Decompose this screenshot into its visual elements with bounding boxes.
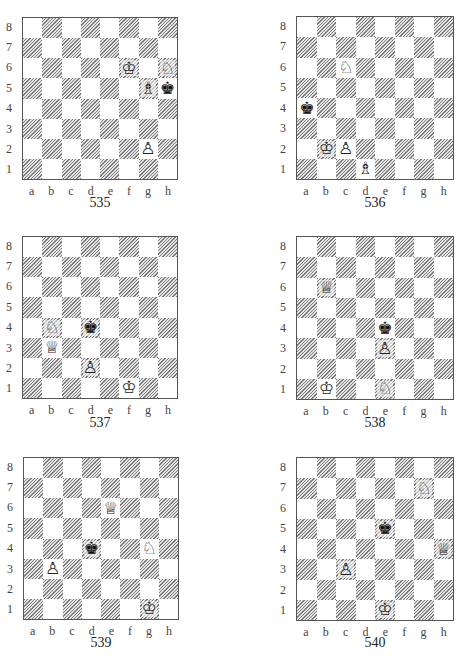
square-d4[interactable] [356,98,376,118]
square-a7[interactable] [297,478,317,498]
square-e8[interactable] [100,237,119,257]
square-f7[interactable] [119,257,138,277]
square-b6[interactable]: ♕ [317,278,337,298]
square-h7[interactable] [159,478,178,498]
square-g6[interactable] [414,58,434,78]
square-h1[interactable] [159,599,178,619]
black-king-icon[interactable]: ♚ [377,520,392,537]
square-c5[interactable] [62,78,81,98]
square-b7[interactable] [317,257,337,277]
square-e4[interactable] [100,99,119,119]
square-d6[interactable] [81,58,100,78]
square-b8[interactable] [317,237,337,257]
white-pawn-icon[interactable]: ♙ [83,359,98,376]
square-b5[interactable] [317,519,337,539]
white-king-icon[interactable]: ♔ [121,60,136,77]
square-c7[interactable] [63,478,82,498]
square-g1[interactable] [414,600,434,620]
square-d6[interactable] [356,499,376,519]
square-e1[interactable] [101,599,120,619]
square-b5[interactable] [42,297,61,317]
square-c4[interactable] [336,539,356,559]
square-g6[interactable] [139,58,158,78]
square-d7[interactable] [356,257,376,277]
square-c5[interactable] [63,518,82,538]
square-b5[interactable] [42,78,61,98]
square-d4[interactable] [81,99,100,119]
square-d8[interactable] [81,18,100,38]
square-f1[interactable] [120,599,139,619]
square-g8[interactable] [139,237,158,257]
square-f2[interactable] [119,358,138,378]
square-e6[interactable] [375,58,395,78]
square-d7[interactable] [356,37,376,57]
square-b3[interactable] [42,119,61,139]
square-a5[interactable] [23,297,42,317]
square-f5[interactable] [119,297,138,317]
square-f6[interactable] [395,58,415,78]
square-g4[interactable]: ♘ [140,539,159,559]
square-b4[interactable] [317,98,337,118]
square-g8[interactable] [414,17,434,37]
square-b2[interactable] [43,579,62,599]
white-pawn-icon[interactable]: ♙ [141,140,156,157]
square-a1[interactable] [297,379,317,399]
square-h4[interactable] [159,539,178,559]
white-queen-icon[interactable]: ♕ [319,279,334,296]
square-e4[interactable] [375,98,395,118]
square-d5[interactable] [81,78,100,98]
square-d4[interactable] [356,318,376,338]
square-e1[interactable]: ♔ [375,600,395,620]
square-f8[interactable] [395,237,415,257]
square-e8[interactable] [100,18,119,38]
square-c3[interactable] [62,338,81,358]
square-e4[interactable] [100,318,119,338]
white-knight-icon[interactable]: ♘ [142,540,157,557]
square-g8[interactable] [139,18,158,38]
square-e5[interactable] [375,298,395,318]
square-f7[interactable] [395,37,415,57]
square-f7[interactable] [395,478,415,498]
square-g6[interactable] [140,498,159,518]
square-c5[interactable] [62,297,81,317]
square-d2[interactable] [82,579,101,599]
square-d2[interactable] [356,139,376,159]
square-d8[interactable] [356,458,376,478]
square-a8[interactable] [297,458,317,478]
square-c1[interactable] [336,379,356,399]
square-b1[interactable] [43,599,62,619]
square-g3[interactable] [139,119,158,139]
square-b7[interactable] [317,37,337,57]
square-d7[interactable] [356,478,376,498]
square-b8[interactable] [42,237,61,257]
square-b5[interactable] [317,78,337,98]
square-d1[interactable] [356,379,376,399]
square-a6[interactable] [297,278,317,298]
white-knight-icon[interactable]: ♘ [160,60,175,77]
square-e3[interactable] [375,118,395,138]
square-a1[interactable] [24,599,43,619]
square-d3[interactable] [81,119,100,139]
square-f1[interactable] [395,379,415,399]
square-h8[interactable] [434,237,454,257]
square-e2[interactable] [375,359,395,379]
square-c6[interactable] [336,278,356,298]
square-f8[interactable] [395,458,415,478]
square-a6[interactable] [297,499,317,519]
square-b2[interactable] [42,139,61,159]
square-d6[interactable] [356,278,376,298]
square-g1[interactable]: ♔ [140,599,159,619]
square-f5[interactable] [119,78,138,98]
square-f6[interactable]: ♔ [119,58,138,78]
square-d7[interactable] [82,478,101,498]
square-a5[interactable] [297,519,317,539]
square-f1[interactable] [119,159,138,179]
square-h5[interactable] [158,297,177,317]
square-b7[interactable] [42,38,61,58]
square-b4[interactable] [43,539,62,559]
square-d7[interactable] [81,38,100,58]
square-c4[interactable] [336,318,356,338]
square-d5[interactable] [356,519,376,539]
square-a7[interactable] [23,38,42,58]
square-g5[interactable] [414,78,434,98]
